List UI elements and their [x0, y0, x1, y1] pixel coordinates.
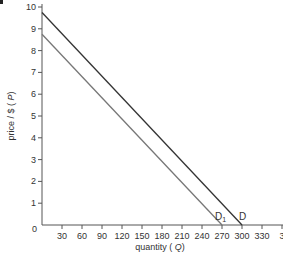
x-tick-label: 240	[194, 231, 209, 241]
x-axis-title: quantity ( Q)	[135, 242, 185, 252]
x-tick-label: 210	[174, 231, 189, 241]
x-tick-label: 150	[134, 231, 149, 241]
y-tick-label: 3	[31, 155, 36, 165]
y-tick-label: 9	[31, 24, 36, 34]
x-tick-label: 30	[57, 231, 67, 241]
y-axis-title: price / $ ( P)	[6, 91, 16, 140]
axes	[42, 4, 283, 225]
x-tick-label: 3	[279, 231, 283, 241]
corner-mark	[0, 0, 3, 4]
series: DD1	[42, 12, 246, 225]
y-tick-label: 8	[31, 46, 36, 56]
x-tick-label: 330	[254, 231, 269, 241]
y-tick-label: 2	[31, 176, 36, 186]
demand-curve-d1	[42, 34, 222, 225]
x-tick-label: 90	[97, 231, 107, 241]
y-tick-label: 4	[31, 133, 36, 143]
y-tick-label: 10	[26, 2, 36, 12]
y-tick-label: 1	[31, 198, 36, 208]
demand-curve-d	[42, 12, 242, 225]
x-tick-label: 120	[114, 231, 129, 241]
x-tick-label: 270	[214, 231, 229, 241]
y-ticks: 12345678910	[26, 2, 42, 208]
curve-label-d: D	[239, 211, 246, 222]
x-tick-label: 300	[234, 231, 249, 241]
origin-label: 0	[32, 224, 37, 234]
y-tick-label: 7	[31, 67, 36, 77]
x-ticks: 3060901201501802102402703003303	[57, 225, 283, 241]
x-tick-label: 60	[77, 231, 87, 241]
demand-chart: 12345678910 3060901201501802102402703003…	[0, 0, 283, 260]
y-tick-label: 5	[31, 111, 36, 121]
curve-label-d1: D1	[215, 211, 226, 223]
y-tick-label: 6	[31, 89, 36, 99]
x-tick-label: 180	[154, 231, 169, 241]
